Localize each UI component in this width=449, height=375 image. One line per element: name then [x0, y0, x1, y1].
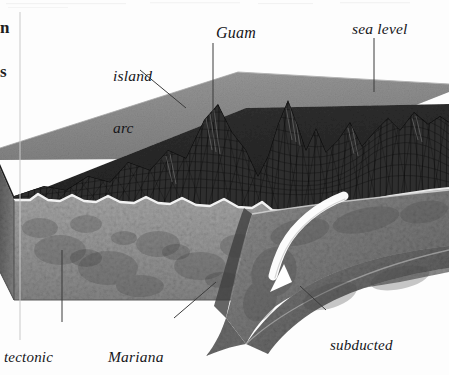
label-island-arc-line2: arc — [113, 119, 152, 136]
edge-text-fragment-bottom: s — [0, 62, 11, 82]
label-mariana-trench-line1: Mariana — [108, 348, 164, 365]
label-mariana-trench: Mariana Trench — [108, 313, 164, 375]
label-subducted-tectonic-plate: subducted tectonic plate — [330, 303, 414, 375]
label-guam: Guam — [216, 24, 256, 42]
label-subducted-line1: subducted — [330, 337, 414, 354]
label-sea-level: sea level — [352, 20, 408, 37]
edge-text-fragment-top: n — [0, 18, 11, 38]
label-tectonic-plate: tectonic plate — [4, 315, 53, 375]
label-island-arc: island arc — [113, 32, 152, 171]
label-tectonic-plate-line1: tectonic — [4, 349, 53, 366]
subduction-diagram-figure: sea level Guam island arc tectonic plate… — [0, 0, 449, 375]
label-island-arc-line1: island — [113, 67, 152, 84]
